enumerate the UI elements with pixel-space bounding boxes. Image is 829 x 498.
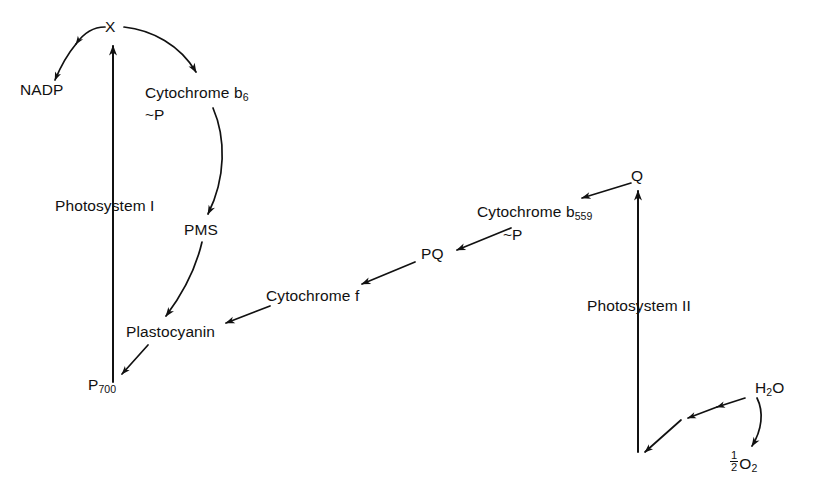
node-oxygen: 1 2 O2 — [730, 450, 757, 475]
node-cytochrome-b6-subscript: 6 — [243, 91, 249, 103]
edge-x-to-cytochrome-b6 — [124, 27, 196, 72]
edge-cytochrome-b6-to-pms — [208, 108, 222, 214]
edge-cytochrome-f-to-plastocyanin — [226, 306, 270, 323]
node-p700: P700 — [88, 376, 116, 396]
node-q: Q — [631, 167, 643, 184]
node-nadp: NADP — [20, 81, 63, 98]
node-pms: PMS — [184, 221, 218, 238]
edge-pq-to-cytochrome-f — [362, 262, 415, 284]
node-cytochrome-b6-text: Cytochrome b — [145, 84, 243, 101]
z-scheme-diagram: X NADP Cytochrome b6 ~P Photosystem I PM… — [0, 0, 829, 498]
edge-q-to-cytochrome-b559 — [582, 183, 631, 198]
node-photosystem-ii: Photosystem II — [587, 297, 691, 314]
node-oxygen-o: O — [739, 455, 751, 472]
node-p700-text: P — [88, 376, 98, 393]
edge-water-to-photosystem-ii-seg1 — [717, 398, 745, 407]
edge-plastocyanin-to-p700 — [122, 345, 148, 374]
edge-water-to-oxygen — [752, 398, 761, 446]
node-oxygen-subscript: 2 — [751, 462, 757, 474]
node-oxygen-denominator: 2 — [730, 462, 738, 473]
edge-water-to-photosystem-ii-seg2 — [688, 407, 717, 418]
node-cytochrome-b559: Cytochrome b559 — [477, 203, 592, 223]
node-x: X — [105, 18, 115, 35]
node-plastocyanin: Plastocyanin — [126, 323, 215, 340]
edge-pms-to-plastocyanin — [166, 242, 202, 316]
node-cytochrome-f: Cytochrome f — [266, 287, 359, 304]
node-cytochrome-b559-phosphate: ~P — [503, 226, 522, 244]
node-pq: PQ — [421, 245, 444, 262]
node-cytochrome-b559-text: Cytochrome b — [477, 203, 575, 220]
edge-x-to-nadp-head1 — [76, 27, 105, 44]
node-water-o: O — [772, 379, 784, 396]
diagram-canvas — [0, 0, 829, 498]
node-water: H2O — [755, 379, 784, 399]
node-cytochrome-b6: Cytochrome b6 — [145, 84, 249, 104]
edge-x-to-nadp-head2 — [55, 44, 76, 80]
node-oxygen-fraction: 1 2 — [730, 450, 738, 473]
node-cytochrome-b559-subscript: 559 — [575, 210, 593, 222]
node-p700-subscript: 700 — [98, 383, 116, 395]
node-water-h: H — [755, 379, 766, 396]
edge-water-to-photosystem-ii-seg3 — [645, 420, 681, 452]
node-photosystem-i: Photosystem I — [55, 197, 155, 214]
node-cytochrome-b6-phosphate: ~P — [145, 106, 164, 124]
